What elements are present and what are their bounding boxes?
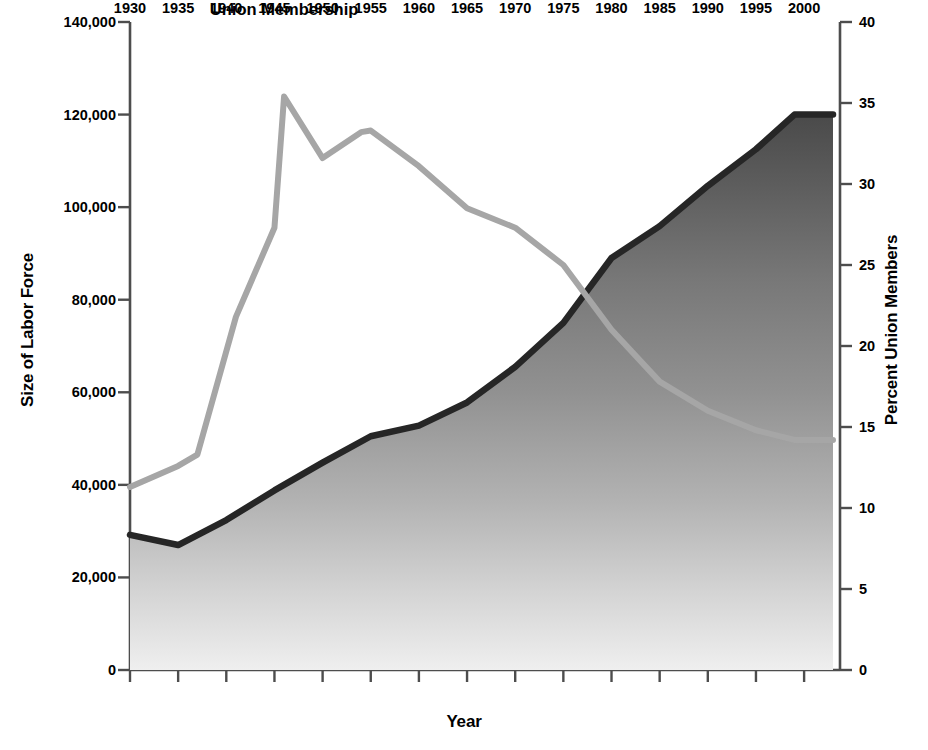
data-series [130,97,833,670]
chart-figure: Size of Labor Force Percent Union Member… [0,0,928,750]
plot-area [0,0,928,750]
